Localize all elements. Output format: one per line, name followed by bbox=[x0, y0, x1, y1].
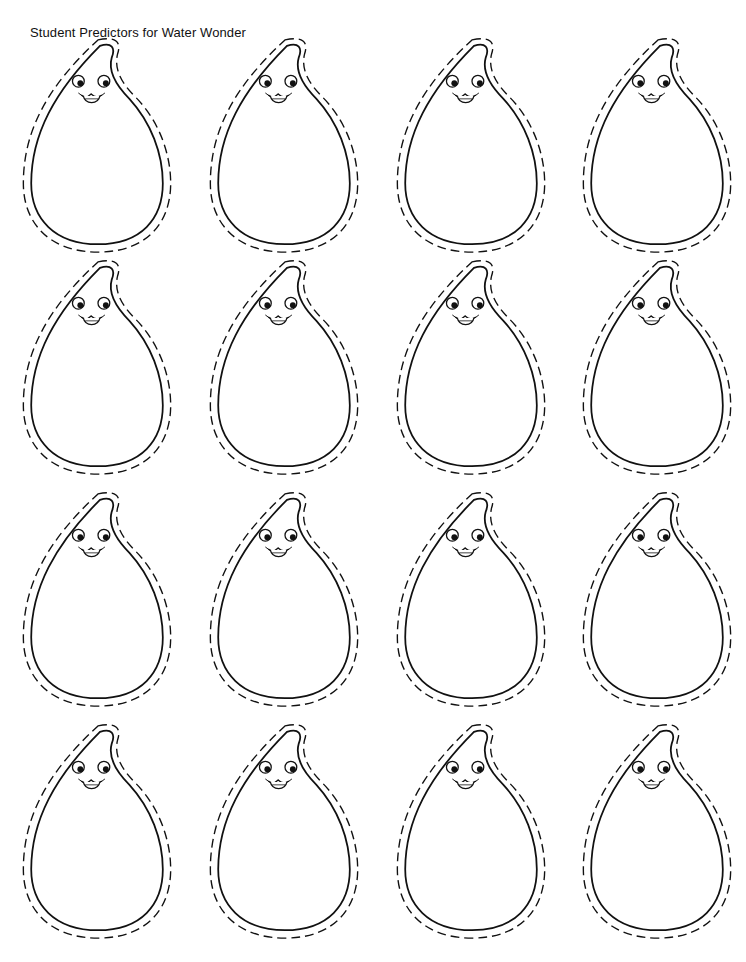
water-drop-cutout-r1c1 bbox=[18, 36, 178, 256]
water-drop-face-icon bbox=[392, 490, 552, 710]
water-drop-cutout-r2c2 bbox=[205, 258, 365, 478]
water-drop-face-icon bbox=[578, 258, 738, 478]
water-drop-face-icon bbox=[578, 722, 738, 942]
water-drop-face-icon bbox=[392, 36, 552, 256]
water-drop-cutout-r1c2 bbox=[205, 36, 365, 256]
water-drop-cutout-r4c4 bbox=[578, 722, 738, 942]
water-drop-cutout-r4c2 bbox=[205, 722, 365, 942]
water-drop-cutout-r2c1 bbox=[18, 258, 178, 478]
water-drop-cutout-r3c3 bbox=[392, 490, 552, 710]
water-drop-face-icon bbox=[392, 722, 552, 942]
water-drop-cutout-r1c4 bbox=[578, 36, 738, 256]
water-drop-cutout-r3c4 bbox=[578, 490, 738, 710]
water-drop-face-icon bbox=[205, 258, 365, 478]
water-drop-cutout-r4c3 bbox=[392, 722, 552, 942]
water-drop-face-icon bbox=[18, 36, 178, 256]
water-drop-face-icon bbox=[578, 36, 738, 256]
water-drop-face-icon bbox=[18, 490, 178, 710]
water-drop-cutout-r2c4 bbox=[578, 258, 738, 478]
water-drop-face-icon bbox=[392, 258, 552, 478]
water-drop-face-icon bbox=[205, 36, 365, 256]
water-drop-face-icon bbox=[205, 490, 365, 710]
water-drop-face-icon bbox=[578, 490, 738, 710]
water-drop-cutout-r3c2 bbox=[205, 490, 365, 710]
water-drop-face-icon bbox=[18, 258, 178, 478]
water-drop-face-icon bbox=[205, 722, 365, 942]
water-drop-cutout-r2c3 bbox=[392, 258, 552, 478]
water-drop-face-icon bbox=[18, 722, 178, 942]
water-drop-cutout-r1c3 bbox=[392, 36, 552, 256]
water-drop-cutout-r4c1 bbox=[18, 722, 178, 942]
water-drop-cutout-r3c1 bbox=[18, 490, 178, 710]
